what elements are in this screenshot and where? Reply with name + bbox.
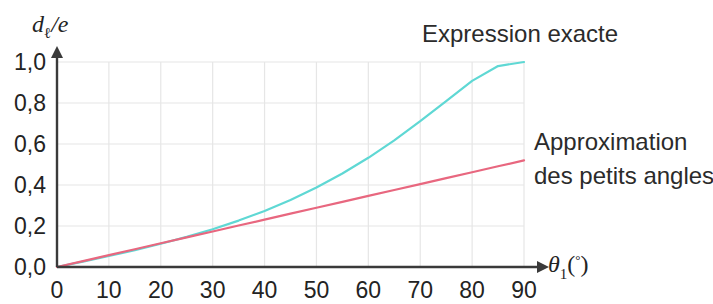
chart-figure: 0102030405060708090 0,00,20,40,60,81,0 E… [0, 0, 713, 304]
x-tick-label: 10 [96, 277, 122, 303]
y-tick-label: 0,2 [14, 213, 46, 239]
series-annotation-label: Expression exacte [422, 20, 618, 47]
x-axis-title-subscript: 1 [560, 266, 568, 282]
series-line [57, 62, 524, 267]
data-series-layer [57, 62, 524, 267]
x-tick-label: 30 [200, 277, 226, 303]
y-axis-title-subscript: ℓ [44, 25, 51, 41]
svg-text:dℓ/e: dℓ/e [32, 11, 69, 41]
x-tick-label: 70 [407, 277, 433, 303]
x-tick-labels: 0102030405060708090 [51, 277, 537, 303]
y-axis-title: dℓ/e [32, 11, 69, 41]
x-tick-label: 60 [356, 277, 382, 303]
x-tick-label: 40 [252, 277, 278, 303]
x-axis-title-paren-open: ( [567, 251, 575, 277]
x-tick-label: 50 [304, 277, 330, 303]
series-annotations: Expression exacteApproximationdes petits… [422, 20, 713, 189]
y-tick-label: 0,4 [14, 172, 46, 198]
series-line [57, 160, 524, 267]
x-tick-label: 80 [459, 277, 485, 303]
series-annotation-label: Approximation [534, 128, 687, 155]
x-axis-title: θ1(°) [548, 251, 589, 282]
y-tick-label: 1,0 [14, 49, 46, 75]
y-tick-labels: 0,00,20,40,60,81,0 [14, 49, 46, 280]
gridlines [57, 62, 524, 267]
y-axis-arrow-head [51, 46, 63, 58]
x-axis-title-theta: θ [548, 251, 560, 277]
y-axis-title-rest: /e [49, 11, 69, 37]
x-tick-label: 0 [51, 277, 64, 303]
x-tick-label: 20 [148, 277, 174, 303]
x-tick-label: 90 [511, 277, 537, 303]
x-axis-title-paren-close: ) [581, 251, 589, 277]
y-tick-label: 0,0 [14, 254, 46, 280]
series-annotation-label: des petits angles [534, 162, 713, 189]
svg-text:θ1(°): θ1(°) [548, 251, 589, 282]
y-tick-label: 0,8 [14, 90, 46, 116]
y-tick-label: 0,6 [14, 131, 46, 157]
